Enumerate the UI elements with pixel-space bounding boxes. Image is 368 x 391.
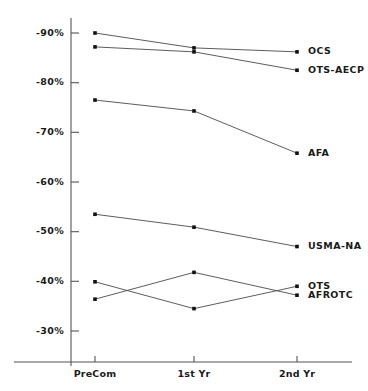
- data-point-marker: [295, 50, 299, 54]
- data-point-marker: [93, 31, 97, 35]
- y-tick-label: -40%: [36, 275, 64, 286]
- y-tick-label: -70%: [36, 126, 64, 137]
- series-afa: [93, 98, 299, 155]
- x-axis-ticks: [95, 356, 297, 362]
- x-tick-label: PreCom: [74, 368, 117, 379]
- data-point-marker: [93, 280, 97, 284]
- data-point-marker: [192, 307, 196, 311]
- series-layer: [93, 31, 299, 310]
- y-tick-label: -90%: [36, 27, 64, 38]
- data-point-marker: [295, 245, 299, 249]
- y-tick-label: -30%: [36, 325, 64, 336]
- x-tick-label: 1st Yr: [178, 368, 211, 379]
- y-axis-ticks: [71, 33, 79, 331]
- data-point-marker: [192, 225, 196, 229]
- data-point-marker: [295, 68, 299, 72]
- series-usma-na: [93, 212, 299, 248]
- series-line: [95, 272, 297, 299]
- series-line: [95, 33, 297, 52]
- series-line: [95, 282, 297, 309]
- series-label-usma-na: USMA-NA: [308, 240, 362, 251]
- series-label-layer: OCSOTS-AECPAFAUSMA-NAOTSAFROTC: [308, 45, 364, 299]
- data-point-marker: [192, 46, 196, 50]
- data-point-marker: [192, 50, 196, 54]
- series-ots: [93, 280, 299, 310]
- series-label-afrotc: AFROTC: [308, 289, 353, 300]
- series-line: [95, 214, 297, 246]
- line-chart: -90% -80% -70% -60% -50% -40% -30% PreCo…: [0, 0, 368, 391]
- data-point-marker: [93, 212, 97, 216]
- y-tick-label: -60%: [36, 176, 64, 187]
- series-ocs: [93, 31, 299, 53]
- series-line: [95, 100, 297, 153]
- series-label-ocs: OCS: [308, 45, 331, 56]
- series-afrotc: [93, 271, 299, 301]
- data-point-marker: [93, 45, 97, 49]
- y-axis-tick-labels: -90% -80% -70% -60% -50% -40% -30%: [36, 27, 64, 336]
- series-label-afa: AFA: [308, 147, 330, 158]
- series-ots-aecp: [93, 45, 299, 72]
- series-label-ots-aecp: OTS-AECP: [308, 64, 364, 75]
- data-point-marker: [93, 98, 97, 102]
- x-axis-tick-labels: PreCom 1st Yr 2nd Yr: [74, 368, 316, 379]
- data-point-marker: [295, 284, 299, 288]
- data-point-marker: [192, 109, 196, 113]
- x-tick-label: 2nd Yr: [279, 368, 315, 379]
- data-point-marker: [295, 151, 299, 155]
- chart-canvas: -90% -80% -70% -60% -50% -40% -30% PreCo…: [0, 0, 368, 391]
- data-point-marker: [93, 297, 97, 301]
- data-point-marker: [192, 271, 196, 275]
- y-tick-label: -80%: [36, 76, 64, 87]
- y-tick-label: -50%: [36, 225, 64, 236]
- data-point-marker: [295, 293, 299, 297]
